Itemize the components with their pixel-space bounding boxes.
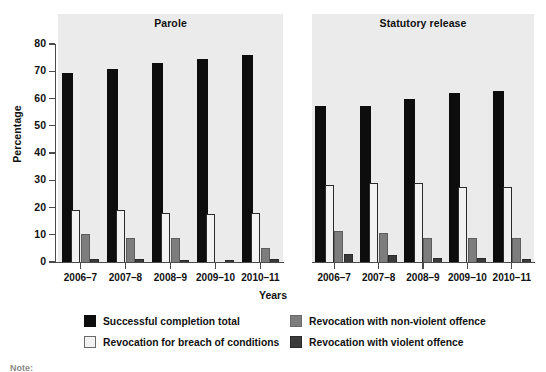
legend-swatch-icon bbox=[84, 336, 96, 348]
bar bbox=[503, 187, 512, 263]
legend-swatch-icon bbox=[84, 315, 96, 327]
legend-label: Revocation for breach of conditions bbox=[103, 337, 279, 348]
x-tick-mark bbox=[378, 263, 379, 269]
bar bbox=[81, 234, 90, 263]
plot-area-statutory bbox=[312, 44, 534, 263]
x-tick-mark bbox=[80, 263, 81, 269]
x-tick-label: 2010–11 bbox=[235, 272, 287, 283]
legend-label: Revocation with non-violent offence bbox=[309, 316, 486, 327]
x-tick-mark bbox=[215, 263, 216, 269]
bar bbox=[206, 214, 215, 263]
y-tick-mark bbox=[49, 180, 55, 181]
y-tick-label: 30 bbox=[18, 173, 46, 185]
bar bbox=[369, 183, 378, 263]
x-tick-mark bbox=[170, 263, 171, 269]
legend-item-breach-of-conditions: Revocation for breach of conditions bbox=[84, 336, 279, 348]
y-tick-label: 70 bbox=[18, 64, 46, 76]
bar bbox=[423, 238, 432, 263]
y-tick-mark bbox=[49, 207, 55, 208]
legend-item-successful-completion: Successful completion total bbox=[84, 315, 240, 327]
bar-group-parole bbox=[197, 44, 235, 263]
bar-group-statutory bbox=[449, 44, 487, 263]
legend-label: Revocation with violent offence bbox=[309, 337, 463, 348]
bar-group-statutory bbox=[493, 44, 531, 263]
x-tick-mark bbox=[260, 263, 261, 269]
bar bbox=[512, 238, 521, 263]
legend-swatch-icon bbox=[290, 336, 302, 348]
bar bbox=[325, 185, 334, 263]
y-tick-label: 20 bbox=[18, 201, 46, 213]
panel-title-parole: Parole bbox=[58, 17, 283, 29]
y-tick-label: 0 bbox=[18, 255, 46, 267]
panel-title-statutory: Statutory release bbox=[312, 17, 534, 29]
x-tick-mark bbox=[422, 263, 423, 269]
x-tick-mark bbox=[125, 263, 126, 269]
bar bbox=[116, 210, 125, 263]
bar bbox=[251, 213, 260, 263]
bar-group-statutory bbox=[404, 44, 442, 263]
y-tick-mark bbox=[49, 43, 55, 44]
y-tick-label: 40 bbox=[18, 146, 46, 158]
legend-label: Successful completion total bbox=[103, 316, 240, 327]
bar-group-parole bbox=[242, 44, 280, 263]
bar-group-statutory bbox=[315, 44, 353, 263]
bar bbox=[458, 187, 467, 263]
legend-item-violent-offence: Revocation with violent offence bbox=[290, 336, 463, 348]
x-tick-mark bbox=[467, 263, 468, 269]
panel-statutory: Statutory release bbox=[312, 14, 534, 263]
bar bbox=[379, 233, 388, 263]
plot-area-parole bbox=[58, 44, 283, 263]
y-tick-label: 10 bbox=[18, 228, 46, 240]
legend-item-non-violent-offence: Revocation with non-violent offence bbox=[290, 315, 486, 327]
y-axis-line bbox=[55, 44, 56, 263]
bar bbox=[161, 213, 170, 263]
y-tick-mark bbox=[49, 234, 55, 235]
chart-figure: Percentage 01020304050607080 Parole Stat… bbox=[0, 0, 546, 372]
bar bbox=[261, 248, 270, 263]
x-tick-mark bbox=[511, 263, 512, 269]
y-tick-label: 80 bbox=[18, 37, 46, 49]
x-tick-label: 2010–11 bbox=[486, 272, 538, 283]
y-tick-mark bbox=[49, 71, 55, 72]
chart-footnote: Note: bbox=[10, 363, 33, 372]
bar bbox=[414, 183, 423, 263]
panel-parole: Parole bbox=[58, 14, 283, 263]
y-tick-mark bbox=[49, 152, 55, 153]
y-tick-mark bbox=[49, 98, 55, 99]
bar bbox=[126, 238, 135, 263]
bar-group-parole bbox=[62, 44, 100, 263]
bar bbox=[171, 238, 180, 263]
chart-legend: Successful completion total Revocation f… bbox=[0, 313, 546, 357]
y-tick-label: 60 bbox=[18, 92, 46, 104]
bar bbox=[334, 231, 343, 263]
bar bbox=[71, 210, 80, 263]
bar-group-parole bbox=[152, 44, 190, 263]
bar bbox=[468, 238, 477, 263]
x-axis-title: Years bbox=[0, 289, 546, 301]
y-tick-label: 50 bbox=[18, 119, 46, 131]
legend-swatch-icon bbox=[290, 315, 302, 327]
bar-group-parole bbox=[107, 44, 145, 263]
x-tick-mark bbox=[334, 263, 335, 269]
y-tick-mark bbox=[49, 125, 55, 126]
bar-group-statutory bbox=[360, 44, 398, 263]
